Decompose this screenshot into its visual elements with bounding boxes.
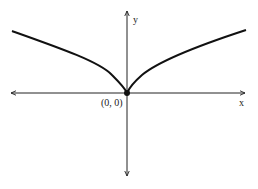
curve-right <box>127 30 246 93</box>
graph <box>0 0 258 189</box>
curve-left <box>12 31 127 93</box>
origin-point <box>124 90 130 96</box>
origin-label: (0, 0) <box>101 97 123 108</box>
y-axis-label: y <box>133 14 138 25</box>
x-axis-label: x <box>239 97 244 108</box>
